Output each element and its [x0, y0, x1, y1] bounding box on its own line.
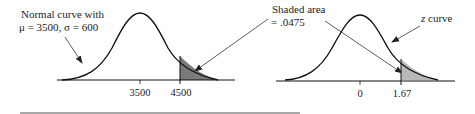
- right-shaded-tail: [401, 59, 436, 80]
- shaded-area-arrow-right: [325, 21, 402, 73]
- z-curve-label: z curve: [420, 12, 453, 24]
- z-curve-arrow: [392, 26, 420, 42]
- shaded-area-label-line1: Shaded area: [272, 3, 326, 15]
- shaded-area-label-line2: = .0475: [271, 16, 305, 28]
- left-curve-label-line2: μ = 3500, σ = 600: [19, 21, 99, 33]
- shaded-area-annotation: Shaded area = .0475: [195, 3, 402, 73]
- left-normal-curve-panel: 3500 4500 Normal curve with μ = 3500, σ …: [19, 8, 235, 98]
- right-tick-label-1-67: 1.67: [393, 88, 411, 99]
- normal-curve-diagram: 3500 4500 Normal curve with μ = 3500, σ …: [0, 0, 475, 114]
- left-curve-arrow: [65, 37, 82, 63]
- shaded-area-arrow-left: [195, 19, 268, 71]
- left-tick-label-3500: 3500: [130, 87, 151, 98]
- left-curve-label-line1: Normal curve with: [21, 8, 105, 20]
- left-tick-label-4500: 4500: [171, 87, 192, 98]
- right-tick-label-0: 0: [357, 88, 362, 99]
